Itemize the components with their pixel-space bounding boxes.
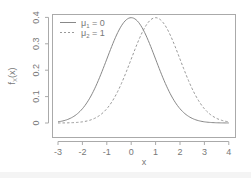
y-axis: 00.10.20.30.4 [31, 11, 49, 125]
x-tick-label: 4 [226, 147, 231, 157]
x-axis: -3-2-101234 [54, 142, 231, 158]
y-tick-label: 0.1 [31, 90, 41, 103]
y-tick-label: 0.3 [31, 38, 41, 51]
y-tick-label: 0 [31, 120, 41, 125]
x-tick-label: 1 [153, 147, 158, 157]
x-axis-label: x [142, 157, 147, 167]
y-tick-label: 0.2 [31, 64, 41, 77]
x-tick-label: 2 [177, 147, 182, 157]
legend-label-2: μ2 = 1 [81, 28, 105, 39]
x-tick-label: -1 [103, 147, 111, 157]
x-tick-label: -3 [54, 147, 62, 157]
plot-box [53, 15, 236, 138]
y-axis-label: fX(x) [7, 67, 18, 84]
x-tick-label: -2 [78, 147, 86, 157]
x-tick-label: 3 [202, 147, 207, 157]
y-tick-label: 0.4 [31, 11, 41, 24]
chart: -3-2-101234 00.10.20.30.4 μ1 = 0 μ2 = 1 … [0, 0, 251, 178]
x-tick-label: 0 [129, 147, 134, 157]
legend: μ1 = 0 μ2 = 1 [60, 18, 105, 39]
